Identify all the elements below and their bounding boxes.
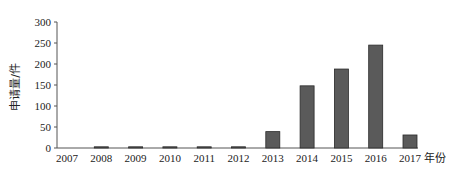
- x-tick-label: 2016: [365, 152, 388, 164]
- bars: [94, 45, 417, 148]
- x-tick-label: 2010: [159, 152, 182, 164]
- y-tick-label: 50: [40, 121, 52, 133]
- bar: [163, 147, 177, 148]
- bar: [197, 147, 211, 148]
- y-tick-label: 100: [35, 100, 52, 112]
- bar: [403, 135, 417, 148]
- bar: [334, 69, 348, 148]
- x-tick-label: 2012: [228, 152, 250, 164]
- x-tick-label: 2011: [193, 152, 215, 164]
- x-tick-label: 2007: [56, 152, 79, 164]
- x-tick-label: 2009: [125, 152, 148, 164]
- bar: [232, 147, 246, 148]
- x-tick-label: 2013: [262, 152, 285, 164]
- x-axis: 2007200820092010201120122013201420152016…: [56, 148, 422, 164]
- y-tick-label: 200: [35, 58, 52, 70]
- bar: [266, 132, 280, 148]
- bar: [129, 147, 143, 148]
- y-tick-label: 300: [35, 16, 52, 28]
- x-tick-label: 2008: [90, 152, 113, 164]
- y-axis-title: 申请量/件: [9, 63, 22, 111]
- bar: [300, 86, 314, 148]
- x-axis-title: 年份: [424, 151, 446, 165]
- bar: [369, 45, 383, 148]
- y-tick-label: 0: [46, 142, 52, 154]
- y-tick-label: 250: [35, 37, 52, 49]
- bar: [94, 147, 108, 148]
- x-tick-label: 2017: [399, 152, 422, 164]
- bar-chart: 050100150200250300 200720082009201020112…: [0, 0, 463, 178]
- y-tick-label: 150: [35, 79, 52, 91]
- x-tick-label: 2015: [330, 152, 353, 164]
- x-tick-label: 2014: [296, 152, 319, 164]
- y-axis: 050100150200250300: [35, 16, 58, 154]
